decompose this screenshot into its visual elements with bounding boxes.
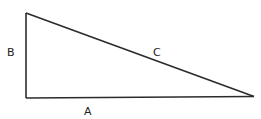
side-c-hypotenuse-line — [26, 13, 254, 97]
side-a-line — [26, 97, 254, 99]
right-triangle-diagram: B C A — [0, 0, 261, 119]
label-c: C — [153, 46, 161, 59]
label-b: B — [7, 46, 15, 59]
label-a: A — [84, 105, 92, 118]
